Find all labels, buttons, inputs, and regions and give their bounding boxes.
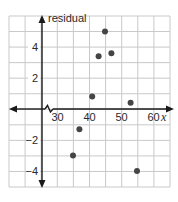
x-axis-left-arrow-icon [9, 106, 17, 113]
data-point [96, 53, 102, 59]
x-tick-label: 60 [147, 111, 159, 123]
data-point [76, 126, 82, 132]
data-point [89, 94, 95, 100]
data-points [70, 29, 140, 175]
x-axis-title: x [160, 110, 167, 124]
y-tick-label: 4 [32, 41, 38, 53]
y-tick-label: 2 [32, 72, 38, 84]
data-point [108, 50, 114, 56]
x-tick-label: 40 [83, 111, 95, 123]
y-axis-title: residual [48, 12, 87, 24]
residual-plot: 30405060−4−224 residual x [0, 0, 178, 202]
data-point [128, 100, 134, 106]
data-point [134, 168, 140, 174]
x-tick-label: 50 [115, 111, 127, 123]
data-point [102, 29, 108, 35]
x-tick-label: 30 [51, 111, 63, 123]
y-tick-label: −2 [25, 134, 38, 146]
y-tick-label: −4 [25, 165, 38, 177]
data-point [70, 153, 76, 159]
